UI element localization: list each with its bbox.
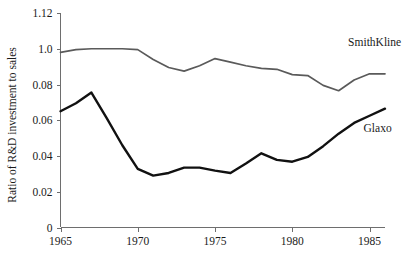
series-line-smithkline <box>61 49 386 91</box>
x-tick-label: 1975 <box>204 235 227 247</box>
y-axis-group: 00.020.040.060.081.01.12 <box>32 7 60 234</box>
y-tick-label: 0 <box>47 222 53 234</box>
y-tick-label: 0.08 <box>32 79 52 91</box>
series-label-glaxo: Glaxo <box>364 122 392 134</box>
y-axis-ticks <box>57 14 61 229</box>
x-tick-label: 1980 <box>281 235 304 247</box>
series-inline-labels: SmithKlineGlaxo <box>348 36 401 135</box>
x-axis-ticks <box>61 228 370 232</box>
chart-container: Ratio of R&D investment to sales 00.020.… <box>0 0 411 260</box>
y-axis-title-group: Ratio of R&D investment to sales <box>6 47 18 203</box>
line-chart: Ratio of R&D investment to sales 00.020.… <box>0 0 411 260</box>
y-tick-label: 1.0 <box>38 43 53 55</box>
y-tick-label: 1.12 <box>32 7 52 19</box>
y-axis-tick-labels: 00.020.040.060.081.01.12 <box>32 7 52 234</box>
y-axis-title: Ratio of R&D investment to sales <box>6 47 18 203</box>
y-tick-label: 0.04 <box>32 150 52 162</box>
x-tick-label: 1970 <box>126 235 149 247</box>
x-tick-label: 1965 <box>49 235 72 247</box>
x-tick-label: 1985 <box>358 235 381 247</box>
x-axis-tick-labels: 19651970197519801985 <box>49 235 381 247</box>
y-tick-label: 0.02 <box>32 186 52 198</box>
series-line-glaxo <box>61 93 386 176</box>
series-group <box>61 49 386 176</box>
series-label-smithkline: SmithKline <box>348 36 401 48</box>
y-tick-label: 0.06 <box>32 114 52 126</box>
x-axis-group: 19651970197519801985 <box>49 228 385 247</box>
